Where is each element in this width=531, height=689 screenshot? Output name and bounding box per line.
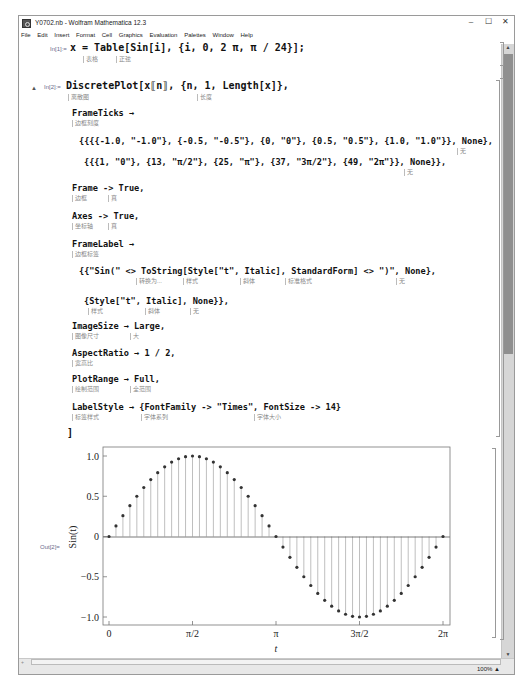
data-point xyxy=(372,613,375,616)
data-point xyxy=(254,504,257,507)
svg-text:3π/2: 3π/2 xyxy=(351,628,369,639)
data-point xyxy=(393,599,396,602)
data-point xyxy=(191,454,194,457)
data-point xyxy=(149,478,152,481)
data-point xyxy=(337,609,340,612)
data-point xyxy=(177,457,180,460)
data-point xyxy=(163,465,166,468)
data-point xyxy=(198,455,201,458)
data-point xyxy=(156,471,159,474)
data-point xyxy=(281,545,284,548)
data-point xyxy=(226,471,229,474)
data-point xyxy=(414,575,417,578)
data-point xyxy=(142,486,145,489)
data-point xyxy=(233,478,236,481)
data-point xyxy=(219,465,222,468)
data-point xyxy=(240,486,243,489)
data-point xyxy=(386,605,389,608)
svg-text:0.5: 0.5 xyxy=(87,491,100,502)
data-point xyxy=(323,599,326,602)
data-point xyxy=(107,535,110,538)
svg-text:1.0: 1.0 xyxy=(87,451,100,462)
data-point xyxy=(170,461,173,464)
x-ticks: 0π/2π3π/22π xyxy=(107,621,449,639)
data-point xyxy=(434,545,437,548)
data-point xyxy=(302,575,305,578)
data-point xyxy=(274,535,277,538)
data-point xyxy=(205,457,208,460)
data-point xyxy=(114,524,117,527)
data-point xyxy=(427,556,430,559)
x-axis-label: t xyxy=(275,643,278,654)
data-point xyxy=(295,566,298,569)
data-point xyxy=(212,461,215,464)
discrete-plot[interactable]: −1.0−0.500.51.0 0π/2π3π/22π Sin(t) t xyxy=(0,0,531,689)
data-point xyxy=(400,592,403,595)
data-point xyxy=(407,584,410,587)
data-point xyxy=(365,615,368,618)
svg-text:π: π xyxy=(273,628,278,639)
data-point xyxy=(288,556,291,559)
data-point xyxy=(128,504,131,507)
data-point xyxy=(351,615,354,618)
svg-text:0: 0 xyxy=(107,628,112,639)
data-point xyxy=(330,605,333,608)
y-axis-label: Sin(t) xyxy=(67,526,79,549)
data-point xyxy=(316,592,319,595)
svg-text:−0.5: −0.5 xyxy=(81,571,99,582)
data-point xyxy=(135,495,138,498)
data-point xyxy=(421,566,424,569)
svg-text:−1.0: −1.0 xyxy=(81,612,99,623)
data-point xyxy=(260,514,263,517)
data-point xyxy=(121,514,124,517)
data-point xyxy=(309,584,312,587)
svg-text:2π: 2π xyxy=(438,628,448,639)
svg-text:π/2: π/2 xyxy=(186,628,199,639)
data-point xyxy=(267,524,270,527)
data-point xyxy=(184,455,187,458)
data-point xyxy=(344,613,347,616)
svg-text:0: 0 xyxy=(94,531,99,542)
data-point xyxy=(379,609,382,612)
data-point xyxy=(358,615,361,618)
data-point xyxy=(247,495,250,498)
data-point xyxy=(441,535,444,538)
